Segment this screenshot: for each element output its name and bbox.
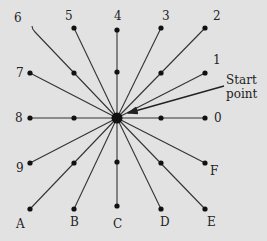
spoke-label-e: E: [207, 215, 216, 229]
spoke-end-dot-d: [158, 206, 163, 211]
center-start-point: [112, 113, 123, 124]
spoke-mid-dot-5: [71, 70, 76, 75]
spoke-end-dot-b: [71, 206, 76, 211]
spoke-line-d: [117, 118, 161, 209]
spoke-label-2: 2: [213, 9, 221, 23]
spoke-label-4: 4: [114, 9, 122, 23]
spoke-end-dot-8: [27, 115, 32, 120]
spoke-label-1: 1: [213, 53, 221, 67]
spoke-mid-dot-2: [158, 70, 163, 75]
spoke-label-7: 7: [16, 66, 24, 80]
spoke-line-3: [117, 28, 161, 118]
spoke-mid-dot-c: [114, 159, 119, 164]
spoke-label-9: 9: [16, 161, 24, 175]
spoke-line-9: [30, 118, 117, 163]
spoke-label-5: 5: [65, 9, 73, 23]
spoke-mid-dot-4: [114, 69, 119, 74]
spoke-label-f: F: [210, 164, 218, 178]
spoke-mid-dot-e: [158, 160, 163, 165]
spoke-label-c: C: [113, 217, 122, 231]
spoke-end-dot-9: [27, 160, 32, 165]
spoke-end-dot-3: [158, 25, 163, 30]
spoke-end-dot-0: [202, 115, 207, 120]
spoke-mid-dot-9: [71, 160, 76, 165]
spoke-label-b: B: [70, 215, 79, 229]
spoke-label-0: 0: [214, 111, 222, 125]
spoke-line-5: [74, 28, 117, 118]
spoke-diagram: 0123456789ABCDEF Start point: [0, 0, 267, 241]
spoke-mid-dot-8: [71, 115, 76, 120]
spoke-end-dot-f: [202, 160, 207, 165]
spoke-mid-dot-0: [158, 115, 163, 120]
start-point-label-line1: Start: [226, 73, 257, 87]
start-point-label-line2: point: [226, 87, 257, 101]
spoke-end-dot-4: [114, 27, 119, 32]
spoke-end-dot-e: [202, 206, 207, 211]
spoke-label-8: 8: [15, 111, 23, 125]
spoke-label-d: D: [160, 215, 170, 229]
spoke-line-7: [30, 73, 117, 118]
spoke-line-b: [74, 118, 117, 209]
spoke-label-6: 6: [14, 11, 22, 25]
spoke-end-dot-1: [202, 70, 207, 75]
spoke-end-dot-c: [114, 203, 119, 208]
spoke-label-3: 3: [162, 9, 170, 23]
spoke-end-dot-5: [71, 25, 76, 30]
spoke-line-f: [117, 118, 205, 163]
spoke-end-dot-a: [27, 206, 32, 211]
spoke-end-dot-2: [202, 25, 207, 30]
start-point-arrow: [128, 86, 224, 113]
spoke-end-dot-7: [27, 70, 32, 75]
spoke-label-a: A: [15, 217, 25, 231]
